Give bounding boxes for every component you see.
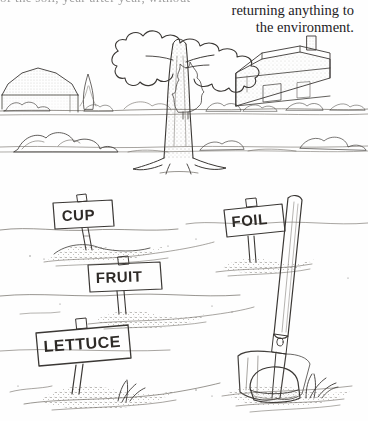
soil-mound-foil — [216, 258, 314, 276]
soil-mound-lettuce — [10, 380, 220, 410]
landscape-illustration — [0, 16, 368, 184]
soil-mound-fruit — [20, 307, 254, 329]
sign-lettuce: LETTUCE — [36, 318, 131, 394]
sign-label-foil: FOIL — [231, 210, 269, 230]
cypress-bush — [80, 74, 96, 109]
sign-label-cup: CUP — [62, 206, 96, 224]
sign-label-lettuce: LETTUCE — [43, 333, 121, 355]
barn-left-icon — [2, 68, 78, 112]
garden-illustration: CUP FOIL FRUIT — [0, 186, 368, 421]
sign-foil: FOIL — [224, 198, 285, 262]
sign-fruit: FRUIT — [88, 256, 162, 314]
scattered-soil-speckles — [17, 238, 348, 396]
sign-label-fruit: FRUIT — [96, 267, 143, 286]
sign-cup: CUP — [53, 194, 114, 250]
book-page: of the soil, year after year, without re… — [0, 0, 368, 421]
farmhouse-right-icon — [236, 36, 330, 106]
